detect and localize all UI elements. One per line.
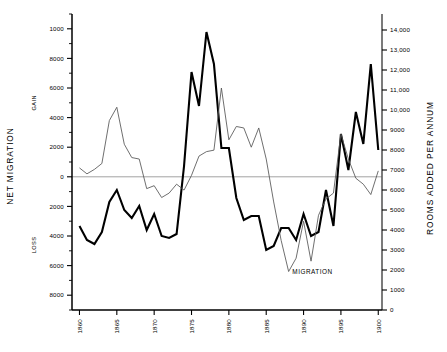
left-axis-tick-label: 6000: [49, 262, 64, 269]
right-axis-tick-label: 8000: [390, 146, 405, 153]
left-axis-tick-label: 2000: [49, 203, 64, 210]
right-axis-tick-label: 1000: [390, 286, 405, 293]
x-axis-tick-label: 1895: [337, 319, 344, 334]
right-axis-tick-label: 0: [390, 306, 394, 313]
right-axis-tick-label: 5000: [390, 206, 405, 213]
right-axis-tick-label: 6000: [390, 186, 405, 193]
left-axis-tick-label: 0: [60, 173, 64, 180]
right-axis-title: ROOMS ADDED PER ANNUM: [425, 101, 435, 235]
right-axis-tick-label: 13,000: [390, 46, 410, 53]
left-axis-tick-label: 6000: [49, 84, 64, 91]
right-axis-tick-label: 2000: [390, 266, 405, 273]
x-axis-tick-label: 1885: [263, 319, 270, 334]
x-axis-tick-label: 1890: [300, 319, 307, 334]
x-axis-tick-label: 1875: [188, 319, 195, 334]
left-axis-tick-label: 4000: [49, 232, 64, 239]
right-axis-tick-label: 3000: [390, 246, 405, 253]
x-axis-tick-label: 1880: [225, 319, 232, 334]
left-axis-sublabel-gain: GAIN: [31, 95, 37, 110]
x-axis-tick-label: 1870: [151, 319, 158, 334]
right-axis-tick-label: 10,000: [390, 106, 410, 113]
left-axis-tick-label: 8000: [49, 55, 64, 62]
x-axis-tick-label: 1900: [375, 319, 382, 334]
left-axis-sublabel-loss: LOSS: [31, 237, 37, 254]
right-axis-tick-label: 11,000: [390, 86, 410, 93]
right-axis-tick-label: 12,000: [390, 66, 410, 73]
right-axis-tick-label: 7000: [390, 166, 405, 173]
left-axis-tick-label: 1000: [49, 25, 64, 32]
right-axis-tick-label: 9000: [390, 126, 405, 133]
right-axis-tick-label: 4000: [390, 226, 405, 233]
x-axis-tick-label: 1865: [113, 319, 120, 334]
left-axis-tick-label: 8000: [49, 291, 64, 298]
left-axis-title: NET MIGRATION: [5, 127, 15, 204]
migration-rooms-chart: 1000800060004000200002000400060008000 14…: [0, 0, 447, 352]
chart-canvas: 1000800060004000200002000400060008000 14…: [0, 0, 447, 352]
right-axis-tick-label: 14,000: [390, 26, 410, 33]
left-axis-tick-label: 2000: [49, 143, 64, 150]
chart-background: [0, 0, 447, 352]
series-annotation-migration: MIGRATION: [292, 268, 332, 275]
x-axis-tick-label: 1860: [76, 319, 83, 334]
left-axis-tick-label: 4000: [49, 114, 64, 121]
annotations-group: MIGRATION: [292, 268, 332, 275]
